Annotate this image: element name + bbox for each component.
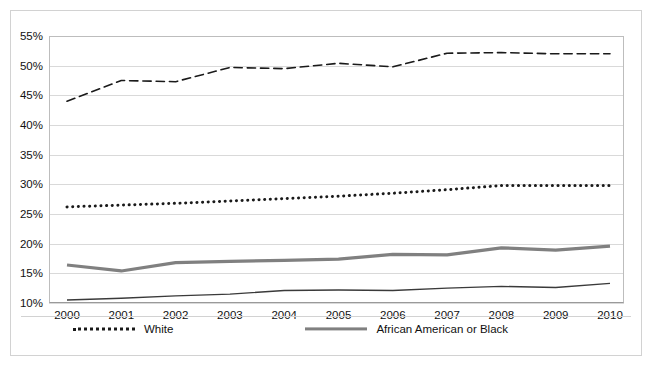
chart-legend: WhiteAfrican American or BlackAsianHispa… bbox=[11, 317, 641, 341]
gridline bbox=[49, 303, 624, 304]
series-line-hispanic bbox=[67, 283, 610, 300]
y-axis-tick-label: 45% bbox=[11, 89, 43, 101]
legend-label: African American or Black bbox=[376, 323, 508, 335]
series-line-white bbox=[67, 186, 610, 207]
y-axis-tick-label: 50% bbox=[11, 60, 43, 72]
legend-item-african-american-or-black[interactable]: African American or Black bbox=[305, 323, 508, 335]
legend-swatch-icon bbox=[73, 323, 135, 335]
y-axis-tick-label: 15% bbox=[11, 267, 43, 279]
chart-card: 10%15%20%25%30%35%40%45%50%55% 200020012… bbox=[10, 10, 642, 356]
legend-line-sample bbox=[73, 328, 135, 331]
y-axis-tick-label: 25% bbox=[11, 208, 43, 220]
y-axis-tick-label: 10% bbox=[11, 297, 43, 309]
legend-label: White bbox=[144, 323, 173, 335]
plot-area bbox=[49, 36, 624, 304]
series-line-african-american-or-black bbox=[67, 246, 610, 271]
legend-line-sample bbox=[305, 327, 367, 330]
series-layer bbox=[49, 36, 624, 303]
legend-swatch-icon bbox=[305, 323, 367, 335]
series-line-asian bbox=[67, 53, 610, 102]
y-axis-tick-label: 55% bbox=[11, 30, 43, 42]
y-axis-tick-label: 35% bbox=[11, 149, 43, 161]
y-axis-tick-label: 30% bbox=[11, 178, 43, 190]
y-axis-tick-label: 20% bbox=[11, 238, 43, 250]
legend-item-white[interactable]: White bbox=[73, 323, 173, 335]
y-axis-tick-label: 40% bbox=[11, 119, 43, 131]
